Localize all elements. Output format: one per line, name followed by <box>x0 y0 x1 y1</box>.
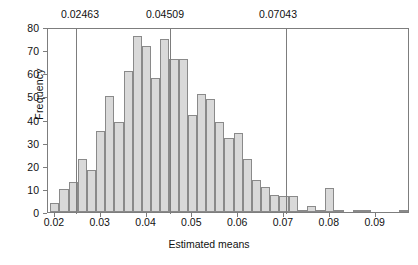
x-tick-label: 0.09 <box>353 217 397 228</box>
y-tick-label: 10 <box>5 185 39 196</box>
y-tick-label: 80 <box>5 23 39 34</box>
histogram-bar <box>197 94 206 212</box>
histogram-bar <box>215 122 224 212</box>
annotation-label-1: 0.02463 <box>45 9 115 20</box>
histogram-bar <box>114 122 123 212</box>
histogram-bar <box>234 133 243 212</box>
x-tick-label: 0.07 <box>261 217 305 228</box>
x-tick-mark <box>329 213 330 217</box>
x-tick-mark <box>54 213 55 217</box>
x-axis-label: Estimated means <box>0 238 418 250</box>
histogram-bar <box>59 189 68 212</box>
histogram-bar <box>160 39 169 212</box>
histogram-bar <box>105 96 114 212</box>
x-tick-label: 0.05 <box>169 217 213 228</box>
histogram-bar <box>325 188 334 212</box>
histogram-bars <box>48 29 408 212</box>
histogram-bar <box>87 170 96 212</box>
histogram-bar <box>179 59 188 212</box>
histogram-bar <box>362 210 371 212</box>
histogram-bar <box>307 206 316 212</box>
histogram-bar <box>252 180 261 212</box>
histogram-bar <box>224 138 233 212</box>
histogram-bar <box>261 187 270 212</box>
histogram-bar <box>142 46 151 213</box>
histogram-bar <box>78 159 87 212</box>
histogram-figure: 0.02463 0.04509 0.07043 Frequency 010203… <box>0 0 418 265</box>
y-tick-label: 20 <box>5 162 39 173</box>
annotation-line-3 <box>286 29 287 214</box>
y-tick-label: 50 <box>5 92 39 103</box>
histogram-bar <box>124 71 133 212</box>
x-tick-mark <box>375 213 376 217</box>
y-tick-label: 30 <box>5 139 39 150</box>
annotation-line-2 <box>170 29 171 214</box>
annotation-line-1 <box>76 29 77 214</box>
y-tick-label: 60 <box>5 69 39 80</box>
x-tick-label: 0.06 <box>215 217 259 228</box>
y-tick-mark <box>43 213 47 214</box>
histogram-bar <box>151 78 160 212</box>
histogram-bar <box>243 159 252 212</box>
histogram-bar <box>96 131 105 212</box>
histogram-bar <box>270 195 279 212</box>
annotation-label-3: 0.07043 <box>243 9 313 20</box>
x-tick-label: 0.04 <box>124 217 168 228</box>
x-tick-mark <box>283 213 284 217</box>
histogram-bar <box>298 210 307 212</box>
histogram-bar <box>399 210 408 212</box>
histogram-bar <box>316 210 325 212</box>
histogram-bar <box>279 196 288 212</box>
histogram-bar <box>50 203 59 212</box>
x-tick-mark <box>191 213 192 217</box>
x-tick-label: 0.02 <box>32 217 76 228</box>
y-tick-label: 40 <box>5 116 39 127</box>
histogram-bar <box>289 196 298 212</box>
histogram-bar <box>133 36 142 212</box>
x-tick-label: 0.08 <box>307 217 351 228</box>
plot-area <box>47 28 409 213</box>
histogram-bar <box>353 210 362 212</box>
x-tick-label: 0.03 <box>78 217 122 228</box>
histogram-bar <box>206 99 215 212</box>
x-tick-mark <box>146 213 147 217</box>
y-tick-label: 70 <box>5 46 39 57</box>
x-tick-mark <box>237 213 238 217</box>
histogram-bar <box>188 115 197 212</box>
histogram-bar <box>334 210 343 212</box>
x-tick-mark <box>100 213 101 217</box>
annotation-label-2: 0.04509 <box>130 9 200 20</box>
